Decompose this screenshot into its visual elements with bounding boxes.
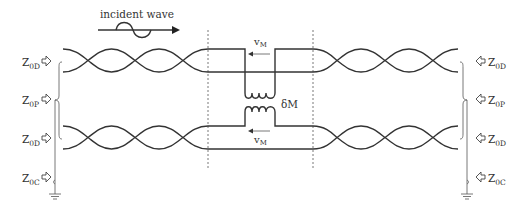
ground-icon-left [49, 194, 61, 199]
hollow-arrow-right-icon [42, 94, 51, 104]
twisted-pair-bottom-left [63, 126, 208, 149]
left-label-z0d-top: Z0D [22, 56, 51, 71]
svg-text:Z0C: Z0C [22, 172, 40, 187]
hollow-arrow-right-icon [42, 133, 51, 143]
current-label-bottom: vM [253, 134, 267, 147]
right-label-z0d-top: Z0D [476, 56, 506, 71]
incident-wave-label: incident wave [100, 8, 174, 20]
current-arrow-bottom-icon [248, 129, 270, 134]
hollow-arrow-right-icon [42, 56, 51, 66]
mutual-inductance-icon [245, 93, 275, 112]
twisted-pair-top-right [313, 49, 458, 72]
hollow-arrow-left-icon [476, 133, 485, 143]
left-label-z0d-bottom: Z0D [22, 133, 51, 148]
hollow-arrow-left-icon [476, 56, 485, 66]
current-label-top: vM [253, 36, 267, 49]
diagram-svg: incident wave δM vM [0, 0, 524, 205]
right-impedance-brackets [460, 62, 469, 194]
hollow-arrow-left-icon [476, 172, 485, 182]
right-label-z0p: Z0P [476, 94, 505, 109]
twisted-pair-bottom-right [313, 126, 458, 149]
incident-wave-arrow-icon [98, 23, 180, 38]
svg-text:Z0D: Z0D [488, 133, 506, 148]
ground-icon-right [461, 194, 473, 199]
current-arrow-top-icon [248, 52, 270, 57]
twisted-pair-top-left [63, 49, 208, 72]
left-label-z0c: Z0C [22, 172, 51, 187]
crosstalk-diagram: incident wave δM vM [0, 0, 524, 205]
svg-text:Z0C: Z0C [488, 172, 506, 187]
svg-text:Z0P: Z0P [488, 94, 505, 109]
svg-text:Z0D: Z0D [22, 56, 40, 71]
right-label-z0c: Z0C [476, 172, 506, 187]
left-impedance-brackets [54, 62, 63, 194]
left-label-z0p: Z0P [22, 94, 51, 109]
svg-text:Z0D: Z0D [22, 133, 40, 148]
hollow-arrow-left-icon [476, 94, 485, 104]
hollow-arrow-right-icon [42, 172, 51, 182]
svg-text:Z0P: Z0P [22, 94, 39, 109]
right-label-z0d-bottom: Z0D [476, 133, 506, 148]
mutual-inductance-label: δM [281, 98, 298, 110]
svg-text:Z0D: Z0D [488, 56, 506, 71]
coupled-section-top [208, 49, 313, 93]
